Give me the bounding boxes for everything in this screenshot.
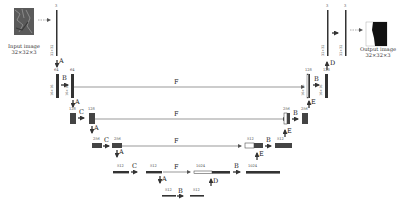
- ch-label-d4b: 1024: [248, 165, 257, 169]
- op-c-l3: C: [104, 137, 109, 144]
- op-a-l2: A: [94, 125, 99, 132]
- size-label-l1a: 16×16: [51, 85, 54, 96]
- dec-l4-concat-light: [194, 171, 212, 174]
- output-image-shape: 32×32×3: [356, 53, 400, 58]
- ch-label-l3a: 256: [93, 138, 100, 142]
- ch-label-out-b: 3: [344, 5, 346, 9]
- ch-label-l2b: 128: [88, 108, 95, 112]
- enc-l3-bar-a: [92, 143, 102, 148]
- input-image-thumbnail: [14, 8, 34, 35]
- enc-l4-bar-b: [146, 171, 162, 173]
- op-f-l2: F: [174, 111, 179, 118]
- enc-l1-bar-a: [56, 74, 59, 98]
- ch-label-in: 3: [55, 5, 57, 9]
- out-bar-a: [327, 10, 329, 56]
- op-a-l1: A: [75, 99, 80, 106]
- dec-l4-bar: [246, 171, 280, 174]
- size-label-in: 32×32: [51, 45, 54, 56]
- op-d-d4: D: [213, 178, 218, 185]
- dec-l1-concat-light: [307, 74, 309, 98]
- op-a-l4: A: [162, 176, 167, 183]
- dec-l3-concat-dark: [254, 143, 263, 148]
- ch-label-l3b: 256: [114, 138, 121, 142]
- ch-label-l1a: 64: [54, 69, 59, 73]
- ch-label-l4b: 512: [150, 165, 157, 169]
- ch-label-l4a: 512: [117, 165, 124, 169]
- size-label-l1b: 16×16: [66, 85, 69, 96]
- ch-label-l2a: 128: [69, 108, 76, 112]
- enc-l1-input-bar: [56, 10, 58, 56]
- ch-label-d3b: 512: [277, 138, 284, 142]
- op-e-d1: E: [311, 99, 316, 106]
- dec-l1-bar: [325, 74, 328, 98]
- ch-label-l5b: 512: [193, 189, 200, 193]
- dec-l2-concat-dark: [287, 113, 290, 124]
- ch-label-d2a: 256: [283, 108, 290, 112]
- output-image-thumbnail: [366, 22, 387, 46]
- op-f-l4: F: [174, 164, 179, 171]
- op-e-d3: E: [259, 151, 264, 158]
- size-label-out-b: 32×32: [340, 45, 343, 56]
- enc-l4-bar-a: [113, 171, 129, 173]
- ch-label-out-a: 3: [326, 5, 328, 9]
- ch-label-d1a: 128: [305, 69, 312, 73]
- op-b-l5: B: [178, 188, 183, 195]
- bottleneck-bar-a: [162, 195, 176, 197]
- dec-l2-concat-light: [284, 113, 287, 124]
- ch-label-d3a: 512: [247, 138, 254, 142]
- ch-label-l5a: 512: [165, 189, 172, 193]
- op-b-d2: B: [293, 110, 298, 117]
- op-d-out: D: [330, 60, 335, 67]
- op-f-l1: F: [174, 79, 179, 86]
- op-b-d4: B: [234, 163, 239, 170]
- unet-diagram: [0, 0, 405, 210]
- bottleneck-bar-b: [190, 195, 204, 197]
- op-e-d2: E: [287, 128, 292, 135]
- size-label-d1b: 16×16: [320, 85, 323, 96]
- op-a-l3: A: [119, 149, 124, 156]
- op-c-l2: C: [79, 109, 84, 116]
- op-b-d3: B: [266, 137, 271, 144]
- op-b-l1: B: [62, 75, 67, 82]
- out-bar-b: [345, 10, 347, 56]
- input-image-shape: 32×32×3: [2, 50, 46, 55]
- dec-l3-bar: [275, 143, 292, 148]
- op-a-l0: A: [59, 58, 64, 65]
- ch-label-d2b: 256: [301, 108, 308, 112]
- ch-label-l1b: 64: [70, 69, 75, 73]
- enc-l2-bar-a: [70, 113, 76, 124]
- ch-label-d1b: 128: [323, 69, 330, 73]
- op-c-l4: C: [132, 163, 137, 170]
- ch-label-d4a: 1024: [196, 165, 205, 169]
- dec-l4-concat-dark: [212, 171, 230, 174]
- size-label-out-a: 32×32: [322, 45, 325, 56]
- dec-l2-bar: [302, 113, 308, 124]
- op-f-l3: F: [174, 138, 179, 145]
- size-label-d1a: 16×16: [302, 85, 305, 96]
- dec-l3-concat-light: [245, 143, 254, 148]
- op-b-d1: B: [314, 76, 319, 83]
- enc-l1-bar-b: [71, 74, 74, 98]
- enc-l2-bar-b: [89, 113, 95, 124]
- dec-l1-concat-dark: [309, 74, 311, 98]
